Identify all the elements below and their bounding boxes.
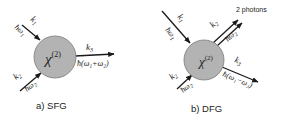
caption-dfg: b) DFG [191, 103, 222, 114]
label-k2-input: k2 [167, 69, 179, 82]
label-k2-output: k2 [207, 17, 220, 30]
label-k2: k2 [11, 69, 23, 82]
panel-dfg: χ(2) 2 photons k1 ħω1 k2 ħω2 k2 ħω2 k3 ħ… [162, 6, 267, 114]
svg-text:k3: k3 [233, 55, 244, 68]
label-hw2: ħω2 [23, 79, 39, 95]
label-k3: k3 [86, 42, 93, 53]
label-k1: k1 [175, 12, 188, 24]
label-difference-frequency: ħ(ω₁−ω₂) [221, 70, 254, 90]
svg-text:ħω2: ħω2 [23, 79, 39, 95]
svg-text:k2: k2 [167, 69, 179, 82]
label-k1: k1 [28, 14, 40, 27]
caption-sfg: a) SFG [36, 100, 67, 111]
svg-text:ħω2: ħω2 [179, 80, 195, 96]
label-hw2-input: ħω2 [179, 80, 195, 96]
output-arrow-k3 [75, 54, 114, 56]
nonlinear-optics-diagram: χ(2) k1 ħω1 k2 ħω2 k3 ħ(ω₁+ω₂) a) SFG [0, 0, 282, 126]
svg-text:k1: k1 [28, 14, 40, 27]
svg-text:ħω2: ħω2 [223, 28, 239, 44]
panel-sfg: χ(2) k1 ħω1 k2 ħω2 k3 ħ(ω₁+ω₂) a) SFG [11, 14, 114, 111]
label-hw2-output: ħω2 [223, 28, 239, 44]
svg-text:k1: k1 [175, 12, 188, 24]
svg-text:k2: k2 [11, 69, 23, 82]
label-sum-frequency: ħ(ω₁+ω₂) [77, 59, 109, 68]
svg-text:ħω1: ħω1 [12, 23, 28, 39]
label-k3: k3 [233, 55, 244, 68]
svg-text:k2: k2 [207, 17, 220, 30]
two-photons-annotation: 2 photons [236, 6, 267, 14]
label-hw1: ħω1 [12, 23, 28, 39]
input-arrow-k1 [162, 11, 190, 43]
svg-text:ħ(ω₁−ω₂): ħ(ω₁−ω₂) [221, 70, 254, 90]
